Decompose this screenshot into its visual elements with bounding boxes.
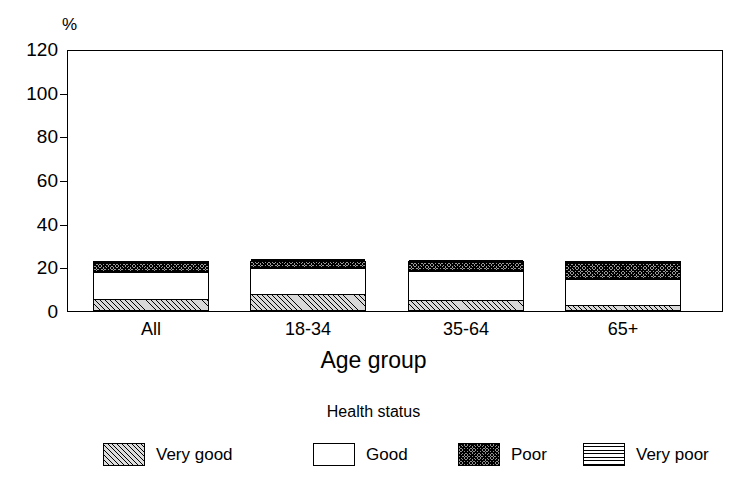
segment-65-plus-good <box>566 279 680 305</box>
very-poor-swatch-icon <box>583 443 625 466</box>
x-tick-label-35-64: 35-64 <box>396 320 536 338</box>
segment-all-very-poor <box>94 261 208 263</box>
y-tick-label-100: 100 <box>2 84 58 103</box>
bar-18-34 <box>250 261 366 311</box>
x-tick-label-all: All <box>81 320 221 338</box>
segment-35-64-good <box>409 271 523 300</box>
segment-35-64-very-poor <box>409 260 523 262</box>
good-swatch-icon <box>313 443 355 466</box>
segment-65-plus-poor <box>566 263 680 278</box>
y-tick-mark-60 <box>60 181 68 182</box>
legend-label-very-poor: Very poor <box>636 446 709 463</box>
x-axis-title: Age group <box>0 349 747 372</box>
segment-35-64-poor <box>409 262 523 272</box>
segment-18-34-very-poor <box>251 259 365 261</box>
y-tick-mark-20 <box>60 268 68 269</box>
legend-label-good: Good <box>366 446 408 463</box>
x-tick-label-18-34: 18-34 <box>238 320 378 338</box>
very-good-swatch-icon <box>103 443 145 466</box>
y-tick-label-60: 60 <box>2 171 58 190</box>
bar-35-64 <box>408 261 524 311</box>
y-axis-unit-label: % <box>62 16 77 33</box>
y-tick-mark-100 <box>60 94 68 95</box>
legend: Very good Good Poor Very poor <box>103 441 663 467</box>
y-tick-label-120: 120 <box>2 40 58 59</box>
bar-all <box>93 261 209 311</box>
segment-65-plus-very-poor <box>566 261 680 264</box>
y-tick-mark-40 <box>60 225 68 226</box>
y-tick-label-40: 40 <box>2 215 58 234</box>
legend-label-very-good: Very good <box>156 446 233 463</box>
segment-18-34-very-good <box>251 294 365 311</box>
y-tick-mark-80 <box>60 137 68 138</box>
stacked-bar-chart: % 120 100 80 60 40 20 0 <box>0 0 747 483</box>
legend-item-poor: Poor <box>458 441 547 467</box>
x-tick-label-65-plus: 65+ <box>553 320 693 338</box>
legend-item-good: Good <box>313 441 408 467</box>
segment-18-34-good <box>251 268 365 295</box>
segment-all-good <box>94 272 208 300</box>
segment-all-very-good <box>94 299 208 311</box>
poor-swatch-icon <box>458 443 500 466</box>
segment-18-34-poor <box>251 261 365 268</box>
legend-label-poor: Poor <box>511 446 547 463</box>
segment-35-64-very-good <box>409 300 523 311</box>
legend-title: Health status <box>0 404 747 420</box>
segment-65-plus-very-good <box>566 305 680 311</box>
y-tick-label-80: 80 <box>2 127 58 146</box>
legend-item-very-poor: Very poor <box>583 441 709 467</box>
y-tick-label-0: 0 <box>2 302 58 321</box>
legend-item-very-good: Very good <box>103 441 233 467</box>
segment-all-poor <box>94 263 208 272</box>
y-tick-label-20: 20 <box>2 258 58 277</box>
bar-65-plus <box>565 261 681 311</box>
bars-layer <box>68 51 722 311</box>
